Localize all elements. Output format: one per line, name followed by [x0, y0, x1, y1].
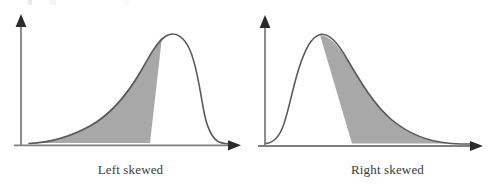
panel-right-skewed: Right skewed	[249, 0, 498, 190]
left-skewed-shaded-area	[30, 37, 162, 143]
left-skewed-caption: Left skewed	[0, 162, 255, 178]
right-y-axis-arrow-icon	[260, 15, 271, 28]
panel-left-skewed: Left skewed	[0, 0, 249, 190]
right-skewed-plot	[249, 0, 498, 160]
right-x-axis-arrow-icon	[470, 141, 483, 151]
skewness-figure: Left skewed Right skewed	[0, 0, 498, 190]
left-x-axis-arrow-icon	[228, 140, 241, 150]
right-skewed-shaded-area	[320, 35, 449, 144]
right-skewed-caption: Right skewed	[249, 162, 498, 178]
left-y-axis-arrow-icon	[16, 14, 27, 27]
left-skewed-plot	[0, 0, 249, 160]
